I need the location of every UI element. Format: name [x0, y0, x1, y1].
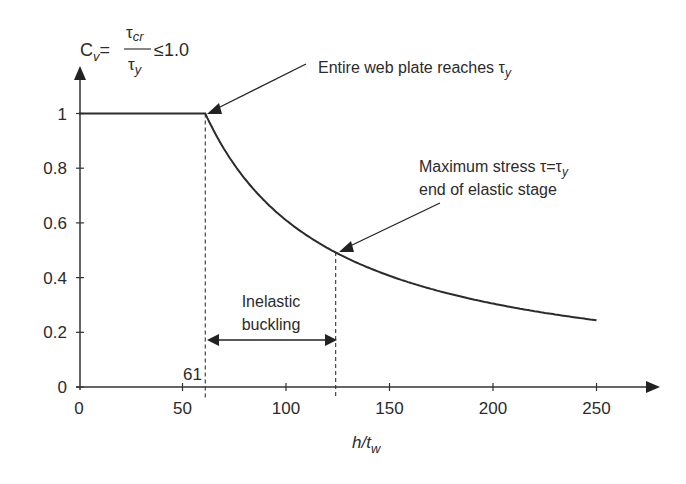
leader-line-max-stress: [348, 203, 440, 247]
formula-rhs: ≤1.0: [154, 40, 189, 60]
annotation-max-stress-line2: end of elastic stage: [419, 181, 557, 198]
formula-eq: =: [100, 40, 111, 60]
x-tick-label: 250: [582, 399, 610, 418]
svg-text:Cv=: Cv=: [80, 40, 110, 64]
x-tick-label: 100: [272, 399, 300, 418]
x-tick-label: 200: [479, 399, 507, 418]
formula-label: Cv= τcr τy ≤1.0: [80, 23, 189, 77]
annotation-inelastic-line1: Inelastic: [242, 293, 301, 310]
y-tick-label: 0.6: [43, 214, 67, 233]
formula-denominator-sub: y: [134, 62, 143, 77]
annotation-inelastic-line2: buckling: [242, 316, 301, 333]
leader-line-web-plate: [216, 64, 306, 109]
x-tick-label: 150: [375, 399, 403, 418]
formula-numerator-sub: cr: [133, 29, 145, 44]
y-tick-label: 0: [58, 378, 67, 397]
x-tick-label: 0: [74, 399, 83, 418]
svg-text:τy: τy: [128, 55, 143, 77]
y-ticks: 00.20.40.60.81: [43, 105, 84, 398]
x-axis-label: h/tw: [352, 433, 382, 456]
x-tick-label: 50: [173, 399, 192, 418]
chart: 00.20.40.60.81 050100150200250 Cv= τcr τ…: [0, 0, 686, 484]
annotation-max-stress-line1: Maximum stress τ=τy: [419, 158, 569, 179]
cv-curve: [79, 114, 597, 321]
y-axis-arrow-icon: [74, 66, 86, 80]
y-tick-label: 0.8: [43, 159, 67, 178]
svg-text:τcr: τcr: [126, 23, 144, 44]
y-tick-label: 0.2: [43, 323, 67, 342]
x-ticks: 050100150200250: [74, 383, 610, 418]
y-tick-label: 1: [58, 105, 67, 124]
arrowhead-max-stress-icon: [339, 241, 354, 252]
arrowhead-web-plate-icon: [207, 103, 222, 114]
x-axis-arrow-icon: [646, 381, 660, 393]
marker-label-61: 61: [183, 365, 202, 384]
left-arrowhead-icon: [207, 334, 219, 346]
annotation-web-plate: Entire web plate reaches τy: [318, 59, 512, 80]
dashed-markers: [205, 114, 335, 399]
y-tick-label: 0.4: [43, 269, 67, 288]
formula-lhs: C: [80, 40, 93, 60]
